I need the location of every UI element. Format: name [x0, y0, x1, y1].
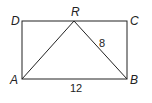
vertex-label-r: R — [71, 5, 80, 19]
rectangle-abcd — [22, 21, 127, 79]
length-label-rb: 8 — [99, 37, 105, 49]
vertex-label-d: D — [11, 14, 20, 28]
length-label-ab: 12 — [70, 82, 82, 94]
segment-ar — [22, 21, 74, 79]
segment-rb — [74, 21, 127, 79]
vertex-label-a: A — [9, 73, 18, 87]
geometry-diagram: D R C A B 8 12 — [0, 0, 152, 103]
vertex-label-c: C — [130, 14, 139, 28]
vertex-label-b: B — [130, 73, 138, 87]
